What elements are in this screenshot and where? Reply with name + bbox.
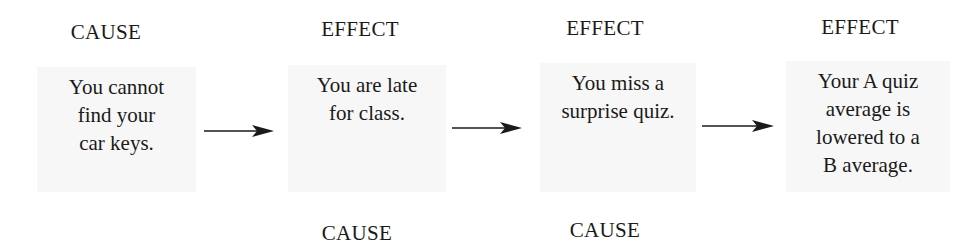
box-lowered-average: Your A quiz average is lowered to a B av… (786, 61, 950, 192)
box-text: You are late for class. (317, 71, 418, 127)
label-cause-3: CAUSE (525, 218, 685, 242)
box-miss-quiz: You miss a surprise quiz. (540, 63, 696, 192)
label-effect-1: EFFECT (280, 17, 440, 41)
arrow-right-icon (204, 124, 274, 138)
arrow-right-icon (452, 121, 522, 135)
label-effect-2: EFFECT (525, 16, 685, 40)
box-text: You cannot find your car keys. (69, 73, 164, 157)
box-cause-car-keys: You cannot find your car keys. (37, 67, 196, 192)
box-text: Your A quiz average is lowered to a B av… (816, 67, 920, 179)
box-text: You miss a surprise quiz. (561, 69, 674, 125)
label-cause-2: CAUSE (277, 221, 437, 245)
box-late-for-class: You are late for class. (288, 65, 446, 192)
arrow-right-icon (702, 119, 774, 133)
label-cause-1: CAUSE (26, 20, 186, 44)
label-effect-3: EFFECT (780, 15, 940, 39)
